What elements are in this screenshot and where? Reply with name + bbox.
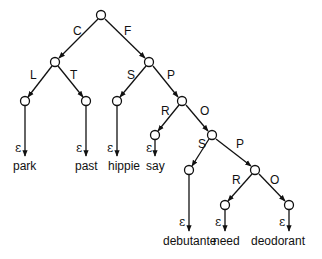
node-F — [145, 58, 154, 67]
node-FPOPO — [285, 201, 294, 210]
node-root — [97, 11, 106, 20]
label-P: P — [167, 68, 175, 82]
node-FPOS — [185, 166, 194, 175]
epsilon-say: ε — [146, 141, 152, 155]
node-CT — [82, 97, 91, 106]
epsilon-park: ε — [15, 141, 21, 155]
word-need: need — [213, 234, 240, 248]
edge-FPO-P — [216, 139, 251, 166]
label-F: F — [124, 24, 131, 38]
word-park: park — [13, 159, 37, 173]
label-C: C — [73, 24, 82, 38]
label-O2: O — [270, 173, 279, 187]
word-past: past — [75, 159, 98, 173]
trie-diagram: C F L T S P R O S P R O ε ε ε ε ε ε ε pa… — [0, 0, 322, 259]
edges — [28, 19, 285, 201]
node-FPO — [208, 131, 217, 140]
word-say: say — [146, 159, 165, 173]
label-O: O — [200, 104, 209, 118]
label-R: R — [161, 104, 170, 118]
word-debutante: debutante — [163, 234, 217, 248]
epsilon-hippie: ε — [107, 141, 113, 155]
leaf-words: park past hippie say debutante need deod… — [13, 159, 306, 248]
node-FPOP — [251, 166, 260, 175]
word-deodorant: deodorant — [251, 234, 306, 248]
epsilon-labels: ε ε ε ε ε ε ε — [15, 141, 285, 229]
label-T: T — [70, 68, 78, 82]
label-R2: R — [232, 173, 241, 187]
node-C — [51, 58, 60, 67]
word-hippie: hippie — [108, 159, 140, 173]
label-L: L — [30, 68, 37, 82]
label-S: S — [127, 68, 135, 82]
label-P2: P — [236, 137, 244, 151]
epsilon-debutante: ε — [179, 215, 185, 229]
node-CL — [21, 97, 30, 106]
label-S2: S — [198, 137, 206, 151]
node-FP — [178, 97, 187, 106]
epsilon-past: ε — [76, 141, 82, 155]
node-FS — [113, 97, 122, 106]
nodes — [21, 11, 294, 210]
epsilon-deodorant: ε — [279, 215, 285, 229]
epsilon-need: ε — [215, 215, 221, 229]
node-FPOPR — [221, 201, 230, 210]
node-FPR — [151, 131, 160, 140]
